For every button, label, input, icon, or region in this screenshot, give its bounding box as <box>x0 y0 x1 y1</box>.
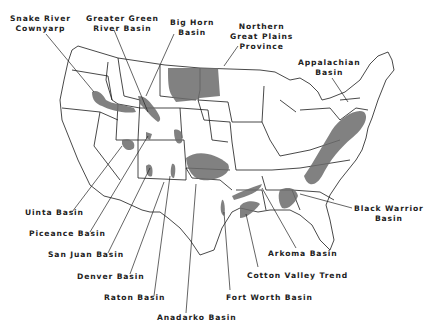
label-raton: Raton Basin <box>104 293 165 303</box>
label-anadarko: Anadarko Basin <box>157 313 236 323</box>
label-uinta: Uinta Basin <box>25 208 84 218</box>
label-greater-green-river: Greater GreenRiver Basin <box>86 14 159 34</box>
label-arkoma: Arkoma Basin <box>268 249 338 259</box>
label-big-horn: Big HornBasin <box>170 18 214 38</box>
label-fort-worth: Fort Worth Basin <box>226 293 313 303</box>
basin-areas <box>92 68 366 218</box>
label-san-juan: San Juan Basin <box>48 250 124 260</box>
label-piceance: Piceance Basin <box>29 229 106 239</box>
label-snake-river: Snake RiverCownyarp <box>10 14 71 34</box>
label-black-warrior: Black WarriorBasin <box>354 204 424 224</box>
us-map <box>0 0 432 334</box>
label-northern-great-plains: NorthernGreat PlainsProvince <box>230 22 293 52</box>
label-appalachian: AppalachianBasin <box>298 58 361 78</box>
label-denver: Denver Basin <box>77 272 145 282</box>
label-cotton-valley: Cotton Valley Trend <box>247 271 348 281</box>
